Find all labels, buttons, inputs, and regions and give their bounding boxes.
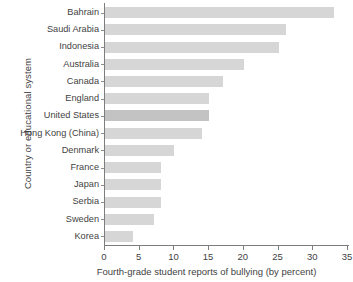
x-axis-tick: [208, 246, 209, 250]
category-label: Denmark: [12, 142, 102, 159]
x-axis-tick-label: 30: [297, 251, 327, 262]
bar: [105, 214, 154, 225]
y-axis-tick: [101, 236, 104, 237]
x-axis-title: Fourth-grade student reports of bullying…: [60, 266, 353, 277]
x-axis-tick: [104, 246, 105, 250]
category-label: Japan: [12, 176, 102, 193]
y-axis-tick: [101, 150, 104, 151]
bar: [105, 197, 161, 208]
bar: [105, 42, 279, 53]
bar: [105, 145, 174, 156]
bar-row: [105, 56, 348, 73]
y-axis-category-labels: BahrainSaudi ArabiaIndonesiaAustraliaCan…: [12, 4, 102, 245]
y-axis-tick: [101, 30, 104, 31]
bar: [105, 162, 161, 173]
x-axis-tick-label: 15: [193, 251, 223, 262]
bar-row: [105, 159, 348, 176]
category-label: Hong Kong (China): [12, 125, 102, 142]
category-label: Bahrain: [12, 4, 102, 21]
x-axis-tick-label: 25: [263, 251, 293, 262]
bar: [105, 7, 334, 18]
y-axis-tick: [101, 99, 104, 100]
bar-row: [105, 228, 348, 245]
bar-row: [105, 176, 348, 193]
bar: [105, 59, 244, 70]
bar: [105, 93, 209, 104]
bar-row: [105, 125, 348, 142]
x-axis-tick: [173, 246, 174, 250]
y-axis-tick: [101, 13, 104, 14]
category-label: United States: [12, 107, 102, 124]
category-label: Indonesia: [12, 38, 102, 55]
y-axis-tick: [101, 116, 104, 117]
bar-row: [105, 107, 348, 124]
x-axis-tick-label: 35: [332, 251, 353, 262]
y-axis-tick: [101, 64, 104, 65]
bar-row: [105, 73, 348, 90]
category-label: Canada: [12, 73, 102, 90]
y-axis-tick: [101, 202, 104, 203]
y-axis-tick: [101, 133, 104, 134]
x-axis-tick: [243, 246, 244, 250]
x-axis-tick-label: 5: [124, 251, 154, 262]
x-axis-tick-label: 10: [158, 251, 188, 262]
plot-area: [105, 4, 348, 245]
bar-row: [105, 193, 348, 210]
x-axis-tick: [139, 246, 140, 250]
category-label: Sweden: [12, 211, 102, 228]
bar: [105, 128, 202, 139]
y-axis-line: [104, 3, 105, 246]
y-axis-tick: [101, 185, 104, 186]
y-axis-tick: [101, 168, 104, 169]
bar: [105, 231, 133, 242]
x-axis-tick: [312, 246, 313, 250]
bar: [105, 76, 223, 87]
category-label: Australia: [12, 56, 102, 73]
category-label: Korea: [12, 228, 102, 245]
bar-row: [105, 142, 348, 159]
bar-series: [105, 4, 348, 245]
bar: [105, 110, 209, 121]
category-label: France: [12, 159, 102, 176]
x-axis-tick: [347, 246, 348, 250]
bar-row: [105, 211, 348, 228]
category-label: England: [12, 90, 102, 107]
x-axis-tick: [278, 246, 279, 250]
bar-row: [105, 90, 348, 107]
bar-row: [105, 38, 348, 55]
y-axis-tick: [101, 47, 104, 48]
x-axis-tick-label: 20: [228, 251, 258, 262]
category-label: Serbia: [12, 193, 102, 210]
bar: [105, 24, 286, 35]
y-axis-tick: [101, 81, 104, 82]
bar-row: [105, 21, 348, 38]
y-axis-tick: [101, 219, 104, 220]
bar-chart: Country or educational system BahrainSau…: [0, 0, 353, 282]
bar-row: [105, 4, 348, 21]
category-label: Saudi Arabia: [12, 21, 102, 38]
bar: [105, 179, 161, 190]
x-axis-tick-label: 0: [89, 251, 119, 262]
